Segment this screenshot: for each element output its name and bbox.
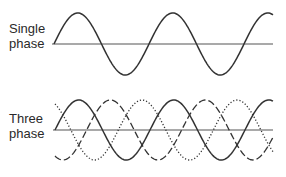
waveform-diagram [0,0,286,177]
three-phase-waveform [53,100,273,160]
single-phase-waveform [52,13,273,75]
